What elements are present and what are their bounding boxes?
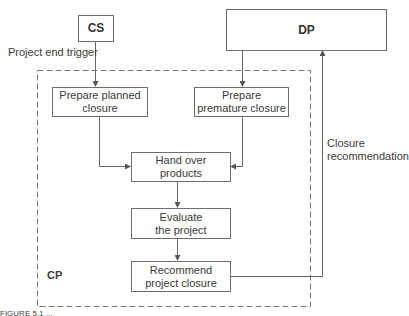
node-cs: CS — [78, 15, 114, 42]
cp-container-label: CP — [47, 269, 62, 282]
edge-label-closure-recommendation: Closure recommendation — [327, 137, 409, 163]
node-hand-over-products: Hand over products — [131, 152, 231, 182]
node-prepare-planned-closure: Prepare planned closure — [52, 87, 148, 117]
figure-caption: FIGURE 5.1 ... — [0, 309, 52, 316]
node-label-line: project closure — [145, 277, 217, 290]
node-label-line: Prepare planned — [59, 89, 140, 102]
node-label-line: Recommend — [150, 264, 212, 277]
label-line: recommendation — [327, 150, 409, 163]
node-dp: DP — [226, 9, 387, 51]
node-cs-label: CS — [88, 22, 105, 35]
node-evaluate-the-project: Evaluate the project — [131, 208, 231, 239]
node-prepare-premature-closure: Prepare premature closure — [194, 87, 289, 117]
edge-label-project-end-trigger: Project end trigger — [8, 46, 98, 59]
node-dp-label: DP — [298, 24, 315, 37]
node-label-line: Evaluate — [160, 211, 203, 224]
node-label-line: Prepare — [222, 89, 261, 102]
edge-recommend-to-dp — [230, 51, 323, 277]
node-label-line: premature closure — [197, 102, 286, 115]
node-label-line: Hand over — [156, 154, 207, 167]
node-label-line: closure — [82, 102, 117, 115]
label-line: Closure — [327, 137, 409, 150]
node-label-line: the project — [155, 224, 206, 237]
edge-prepare-planned-to-hand-over — [100, 116, 131, 167]
node-recommend-project-closure: Recommend project closure — [131, 261, 231, 292]
node-label-line: products — [160, 167, 202, 180]
edge-prepare-premature-to-hand-over — [231, 116, 243, 167]
